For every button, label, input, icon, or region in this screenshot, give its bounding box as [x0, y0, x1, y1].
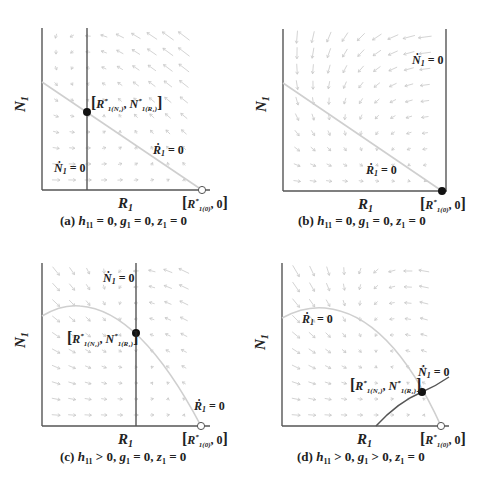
x-axis-label-c: R1 [117, 431, 133, 449]
n-nullcline-label-c: Ṅ1 = 0 [102, 271, 135, 286]
y-axis-label-c: N1 [12, 332, 30, 349]
n-nullcline-label-d: Ṅ1 = 0 [417, 365, 450, 380]
r-nullcline-c [42, 306, 201, 426]
panel-b: N1 R1 Ṅ1 = 0 Ṙ1 = 0 [R*1(0), 0] (b) h11 … [253, 29, 466, 230]
y-axis-label-a: N1 [12, 96, 30, 113]
caption-b: (b) h11 = 0, g1 = 0, z1 = 0 [298, 213, 426, 230]
caption-d: (d) h11 > 0, g1 > 0, z1 = 0 [297, 449, 425, 466]
r-nullcline-label-c: Ṙ1 = 0 [193, 399, 225, 414]
caption-c: (c) h11 > 0, g1 = 0, z1 = 0 [60, 449, 186, 466]
boundary-equilibrium-label-b: [R*1(0), 0] [420, 195, 466, 214]
panel-d: N1 R1 Ṅ1 = 0 Ṙ1 = 0 [R*1(N₁), N*1(R₁)] [… [252, 263, 466, 466]
interior-equilibrium-label-c: [R*1(N₁), N*1(R₁)] [67, 329, 138, 348]
r-nullcline-label-a: Ṙ1 = 0 [152, 143, 184, 158]
boundary-equilibrium-point-d [437, 422, 444, 429]
boundary-equilibrium-label-a: [R*1(0), 0] [182, 194, 228, 213]
vector-field-b [293, 31, 431, 183]
interior-equilibrium-point-a [83, 108, 91, 116]
boundary-equilibrium-label-c: [R*1(0), 0] [182, 430, 228, 449]
r-nullcline-label-d: Ṙ1 = 0 [301, 312, 333, 327]
boundary-equilibrium-label-d: [R*1(0), 0] [420, 430, 466, 449]
caption-a: (a) h11 = 0, g1 = 0, z1 = 0 [60, 213, 187, 230]
y-axis-label-d: N1 [252, 334, 270, 351]
x-axis-label-b: R1 [357, 196, 373, 214]
r-nullcline-label-b: Ṙ1 = 0 [365, 163, 397, 178]
panel-c: N1 R1 Ṅ1 = 0 Ṙ1 = 0 [R*1(N₁), N*1(R₁)] [… [12, 263, 228, 466]
boundary-equilibrium-point-b [438, 187, 446, 195]
n-nullcline-label-a: Ṅ1 = 0 [53, 161, 86, 176]
phase-plane-figure: N1 R1 Ṅ1 = 0 Ṙ1 = 0 [R*1(N₁), N*1(R₁)] [… [0, 0, 483, 489]
interior-equilibrium-label-a: [R*1(N₁), N*1(R₁)] [91, 94, 162, 113]
panel-a: N1 R1 Ṅ1 = 0 Ṙ1 = 0 [R*1(N₁), N*1(R₁)] [… [12, 28, 228, 230]
interior-equilibrium-label-d: [R*1(N₁), N*1(R₁)] [350, 376, 421, 395]
x-axis-label-d: R1 [356, 431, 372, 449]
y-axis-label-b: N1 [253, 96, 271, 113]
n-nullcline-label-b: Ṅ1 = 0 [411, 53, 444, 68]
boundary-equilibrium-point-c [197, 422, 204, 429]
x-axis-label-a: R1 [117, 195, 133, 213]
boundary-equilibrium-point-a [198, 186, 205, 193]
